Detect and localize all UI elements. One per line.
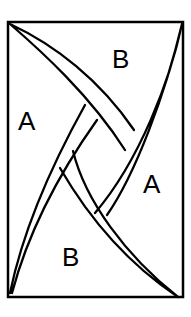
diagram-canvas: B A A B	[0, 0, 191, 317]
label-a-right: A	[143, 169, 161, 199]
label-b-bottom: B	[62, 242, 79, 272]
label-b-top: B	[112, 44, 129, 74]
blade-top-right	[95, 24, 182, 215]
label-a-left: A	[18, 106, 36, 136]
frame	[8, 22, 183, 297]
